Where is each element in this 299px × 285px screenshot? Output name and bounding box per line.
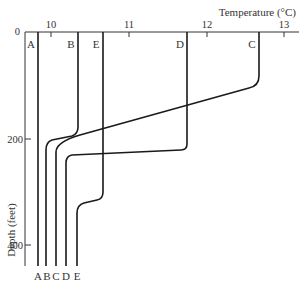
y-ticks xyxy=(25,139,31,245)
x-ticks xyxy=(51,32,284,37)
curve-b xyxy=(46,32,78,266)
curve-d xyxy=(66,32,187,266)
curve-label-bottom: C xyxy=(52,270,59,282)
x-tick-label: 11 xyxy=(124,19,134,30)
curve-label-top: C xyxy=(248,38,255,50)
curve-label-top: E xyxy=(93,38,100,50)
curve-label-bottom: A xyxy=(34,270,42,282)
y-tick-label: 200 xyxy=(7,134,23,145)
y-axis-title: Depth (feet) xyxy=(5,203,18,257)
x-tick-label: 10 xyxy=(46,19,57,30)
x-axis-title: Temperature (°C) xyxy=(219,6,297,19)
x-tick-label: 13 xyxy=(279,19,290,30)
temperature-depth-chart: 10 11 12 13 Temperature (°C) 0 200 400 D… xyxy=(0,0,299,285)
curve-c xyxy=(56,32,259,266)
curve-e xyxy=(77,32,103,266)
curve-label-bottom: E xyxy=(74,270,81,282)
curve-label-bottom: B xyxy=(43,270,50,282)
x-tick-label: 12 xyxy=(202,19,213,30)
curve-label-top: D xyxy=(176,38,184,50)
y-tick-label: 0 xyxy=(15,26,20,37)
curve-label-top: B xyxy=(67,38,74,50)
curve-label-bottom: D xyxy=(62,270,70,282)
curve-label-top: A xyxy=(27,38,35,50)
